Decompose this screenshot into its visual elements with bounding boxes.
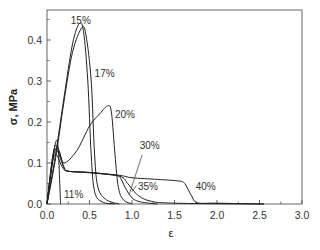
- x-tick-label: 0.5: [82, 209, 97, 221]
- x-tick-label: 3.0: [295, 209, 310, 221]
- y-tick-label: 0.3: [27, 75, 42, 87]
- x-tick-label: 2.5: [252, 209, 267, 221]
- curve-17pct: [47, 27, 119, 204]
- plot-frame: [47, 10, 302, 204]
- x-tick-label: 0.0: [40, 209, 55, 221]
- curve-label-35pct: 35%: [138, 181, 158, 192]
- x-tick-label: 2.0: [210, 209, 225, 221]
- leader-line-35pct: [132, 186, 136, 192]
- y-tick-label: 0.2: [27, 116, 42, 128]
- y-tick-label: 0.1: [27, 157, 42, 169]
- curve-label-40pct: 40%: [196, 181, 216, 192]
- curve-15pct: [47, 23, 115, 204]
- stress-strain-chart: 0.00.51.01.52.02.53.00.00.10.20.30.4 15%…: [0, 0, 320, 250]
- curve-label-15pct: 15%: [71, 15, 91, 26]
- curve-label-30pct: 30%: [140, 140, 160, 151]
- curve-label-17pct: 17%: [95, 68, 115, 79]
- curve-label-11pct: 11%: [64, 189, 83, 200]
- y-axis-title: σ, MPa: [7, 88, 19, 125]
- y-tick-label: 0.0: [27, 198, 42, 210]
- x-tick-label: 1.5: [167, 209, 182, 221]
- curve-label-20pct: 20%: [115, 109, 135, 120]
- y-tick-label: 0.4: [27, 34, 42, 46]
- curves: [47, 23, 264, 204]
- x-tick-label: 1.0: [125, 209, 140, 221]
- x-axis-title: ε: [169, 227, 174, 239]
